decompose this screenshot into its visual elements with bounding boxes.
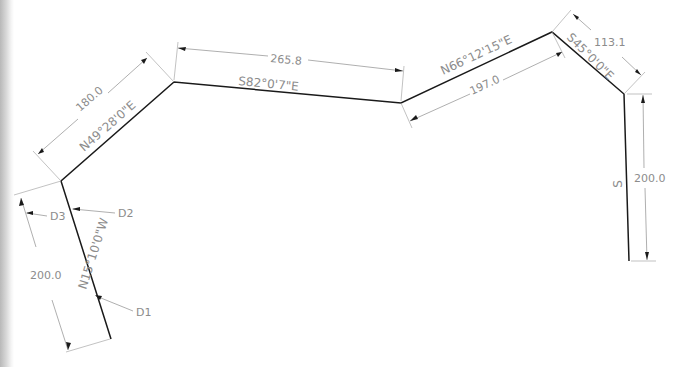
course-4-distance: 197.0 [468,73,502,98]
course-2-dimension [33,52,174,181]
traverse-drawing: 200.0 N15°10'0"W 180.0 N49°28'0"E 265.8 … [0,0,676,367]
callout-d3-label: D3 [50,210,65,223]
course-3-bearing: S82°0'7"E [238,74,300,94]
traverse-line [61,32,629,339]
course-3-distance: 265.8 [270,52,303,68]
callout-d3 [26,211,47,216]
course-1-distance: 200.0 [30,269,62,282]
callout-d1-label: D1 [136,306,151,319]
course-5-distance: 113.1 [594,36,626,49]
course-6-bearing: S [611,180,625,188]
callout-d2-label: D2 [118,207,133,220]
course-5-dimension [552,10,645,94]
course-6-distance: 200.0 [634,172,666,185]
callout-d2 [72,207,115,213]
course-1-bearing: N15°10'0"W [76,216,112,291]
course-2-distance: 180.0 [73,84,105,114]
